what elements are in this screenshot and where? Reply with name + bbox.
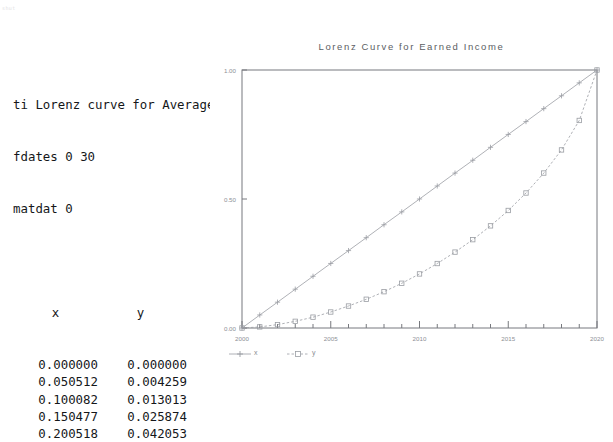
x-axis-tick-label: 2005 [324,335,338,342]
data-point-y [382,289,386,293]
data-point-x [506,132,511,137]
cell-x: 0.000000 [13,356,98,373]
table-row: 0.1000820.013013 [13,391,215,408]
data-point-y [417,272,421,276]
plus-marker-icon [228,348,252,360]
x-axis-tick-label: 2020 [590,335,604,342]
console-command-line: fdates 0 30 [0,148,215,165]
cell-y: 0.013013 [98,391,187,408]
y-axis-tick-label: 0.50 [224,196,237,203]
data-point-x [559,93,564,98]
cell-x: 0.150477 [13,408,98,425]
data-point-x [346,248,351,253]
ghost-text-fragment: shut [2,0,16,17]
table-row: 0.1504770.025874 [13,408,215,425]
x-axis-tick-label: 2015 [501,335,515,342]
table-header-row: xy [13,304,215,321]
cell-y: 0.042053 [98,425,187,442]
table-body: 0.0000000.0000000.0505120.0042590.100082… [13,356,215,442]
data-point-x [452,171,457,176]
cell-x: 0.200518 [13,425,98,442]
console-output-pane: shut ti Lorenz curve for Average Income … [0,0,215,442]
cell-x: 0.050512 [13,373,98,390]
square-marker-icon [286,348,310,360]
table-row: 0.0000000.000000 [13,356,215,373]
column-header-x: x [13,304,98,321]
data-table: xy 0.0000000.0000000.0505120.0042590.100… [0,269,215,442]
cell-y: 0.004259 [98,373,187,390]
column-header-y: y [98,304,183,321]
y-axis-tick-label: 1.00 [224,67,237,74]
table-row: 0.2005180.042053 [13,425,215,442]
cell-y: 0.025874 [98,408,187,425]
chart-canvas: 1.000.500.0020002005201020152020 [210,30,613,375]
table-row: 0.0505120.004259 [13,373,215,390]
cell-y: 0.000000 [98,356,187,373]
plot-panel: Lorenz Curve for Earned Income 1.000.500… [210,30,613,375]
legend-item-x[interactable]: x [228,348,252,361]
x-axis-tick-label: 2010 [413,335,427,342]
legend-item-y[interactable]: y [286,348,310,361]
console-command-line: matdat 0 [0,200,215,217]
console-command-line: ti Lorenz curve for Average Income withi… [0,96,215,113]
cell-x: 0.100082 [13,391,98,408]
x-axis-tick-label: 2000 [235,335,249,342]
legend-label: y [312,349,316,356]
legend-label: x [254,349,258,356]
console-top-spacer [0,52,215,62]
y-axis-tick-label: 0.00 [224,325,237,332]
